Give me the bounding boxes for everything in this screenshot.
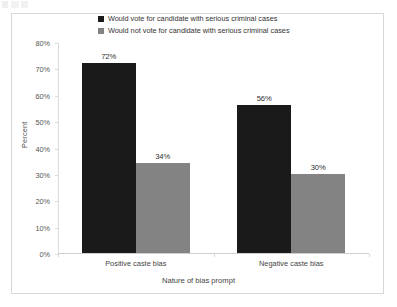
y-tick-label-20: 20% [35, 197, 50, 206]
legend-item-would-not-vote: Would not vote for candidate with seriou… [98, 25, 348, 36]
x-tick-1 [214, 254, 215, 257]
legend-swatch-icon-series-0 [98, 16, 104, 22]
legend-item-would-vote: Would vote for candidate with serious cr… [98, 13, 348, 24]
y-tick-label-70: 70% [35, 65, 50, 74]
bar-value-label-series-0-category-1: 56% [257, 94, 272, 103]
bar-series-0-category-0[interactable] [82, 63, 136, 253]
y-tick-label-0: 0% [39, 250, 50, 259]
x-category-label-1: Negative caste bias [259, 259, 324, 268]
y-tick-50: 50% [55, 122, 58, 123]
y-tick-60: 60% [55, 96, 58, 97]
x-axis-title: Nature of bias prompt [0, 276, 397, 285]
y-tick-10: 10% [55, 228, 58, 229]
bar-series-1-category-1[interactable] [291, 174, 345, 253]
legend-label-series-0: Would vote for candidate with serious cr… [108, 14, 277, 23]
bar-value-label-series-0-category-0: 72% [101, 52, 116, 61]
y-tick-label-80: 80% [35, 39, 50, 48]
legend-label-series-1: Would not vote for candidate with seriou… [108, 26, 290, 35]
y-tick-70: 70% [55, 69, 58, 70]
y-tick-30: 30% [55, 175, 58, 176]
y-tick-label-30: 30% [35, 170, 50, 179]
y-axis-line [58, 43, 59, 254]
x-tick-2 [369, 254, 370, 257]
y-axis-title: Percent [20, 121, 29, 148]
chart-legend: Would vote for candidate with serious cr… [98, 13, 348, 37]
x-tick-0 [58, 254, 59, 257]
y-tick-label-50: 50% [35, 118, 50, 127]
x-category-label-0: Positive caste bias [105, 259, 166, 268]
bar-series-1-category-0[interactable] [136, 163, 190, 253]
bar-value-label-series-1-category-1: 30% [311, 163, 326, 172]
y-tick-40: 40% [55, 149, 58, 150]
bar-value-label-series-1-category-0: 34% [155, 152, 170, 161]
y-tick-20: 20% [55, 201, 58, 202]
y-tick-label-40: 40% [35, 144, 50, 153]
y-tick-label-60: 60% [35, 91, 50, 100]
y-tick-label-10: 10% [35, 223, 50, 232]
bar-series-0-category-1[interactable] [237, 105, 291, 253]
legend-swatch-icon-series-1 [98, 28, 104, 34]
scan-artifact [2, 1, 28, 8]
plot-area: 0%10%20%30%40%50%60%70%80% 72%34%56%30% [58, 43, 369, 254]
y-tick-80: 80% [55, 43, 58, 44]
